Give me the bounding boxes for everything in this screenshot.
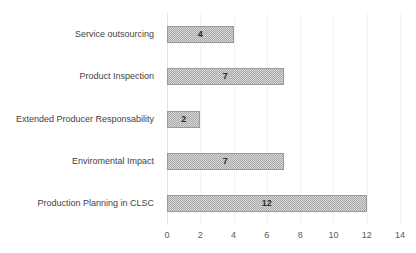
bar-value-label: 7	[167, 153, 284, 170]
category-label: Enviromental Impact	[0, 153, 160, 170]
x-tick-label: 10	[321, 230, 345, 240]
x-tick-label: 6	[255, 230, 279, 240]
x-tick-label: 8	[288, 230, 312, 240]
x-tick-label: 14	[388, 230, 412, 240]
bar-row: 7	[167, 68, 400, 85]
x-tick-label: 12	[355, 230, 379, 240]
bar-value-label: 4	[167, 26, 234, 43]
bar-row: 2	[167, 111, 400, 128]
gridline	[400, 13, 401, 225]
bar-row: 4	[167, 26, 400, 43]
category-label: Product Inspection	[0, 68, 160, 85]
category-label: Production Planning in CLSC	[0, 195, 160, 212]
bar-value-label: 2	[167, 111, 200, 128]
bar-row: 7	[167, 153, 400, 170]
x-tick-label: 2	[188, 230, 212, 240]
plot-area: 472712	[167, 13, 400, 225]
category-label: Extended Producer Responsability	[0, 111, 160, 128]
bar-row: 12	[167, 195, 400, 212]
x-tick-label: 4	[222, 230, 246, 240]
bar-chart: 472712 Service outsourcingProduct Inspec…	[0, 0, 416, 253]
category-label: Service outsourcing	[0, 26, 160, 43]
bar-value-label: 7	[167, 68, 284, 85]
x-tick-label: 0	[155, 230, 179, 240]
bar-value-label: 12	[167, 195, 367, 212]
